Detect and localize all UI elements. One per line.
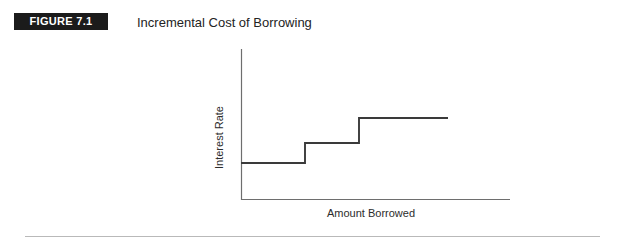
figure-title: Incremental Cost of Borrowing	[137, 14, 312, 32]
step-function-line	[241, 118, 448, 163]
x-axis-label: Amount Borrowed	[281, 207, 461, 219]
y-axis-label: Interest Rate	[211, 96, 227, 180]
figure-label-badge: FIGURE 7.1	[14, 13, 108, 30]
bottom-divider	[25, 236, 600, 237]
figure-page: FIGURE 7.1 Incremental Cost of Borrowing…	[0, 0, 622, 248]
figure-label-text: FIGURE 7.1	[30, 16, 93, 27]
